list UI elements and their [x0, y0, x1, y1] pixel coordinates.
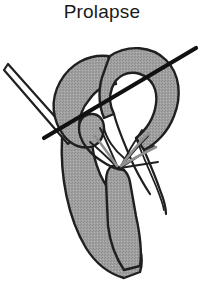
figure-root: Prolapse	[0, 0, 204, 284]
figure-title: Prolapse	[0, 1, 204, 23]
prolapse-diagram	[0, 26, 204, 284]
